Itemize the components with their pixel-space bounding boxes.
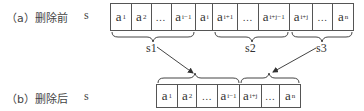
braces-and-arrows [0,0,364,111]
group-label-s3: s3 [316,41,327,56]
arrow-s3-to-after [273,48,316,72]
arrow-s1-to-after [157,47,193,73]
group-label-s1: s1 [146,41,157,56]
group-label-s2: s2 [245,41,256,56]
brace-after-right [241,73,299,83]
brace-after-left [158,73,239,83]
